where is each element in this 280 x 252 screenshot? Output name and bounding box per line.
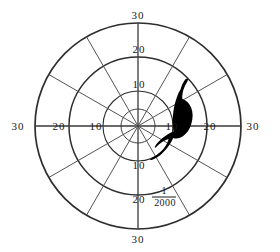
spoke-210	[49, 126, 138, 178]
label-west-30: 30	[11, 120, 24, 132]
scale-numerator: 1	[162, 185, 167, 196]
label-north-30: 30	[131, 9, 144, 21]
label-east-10: 10	[165, 120, 178, 132]
scale-fraction: 1 2000	[152, 185, 176, 208]
spoke-150	[49, 75, 138, 127]
spoke-120	[87, 37, 139, 126]
spoke-240	[87, 126, 139, 215]
axis-labels-north: 30 20 10	[131, 9, 145, 90]
label-north-20: 20	[132, 43, 145, 55]
label-east-30: 30	[246, 120, 259, 132]
scale-denominator: 2000	[154, 197, 176, 208]
axis-labels-west: 30 20 10	[11, 120, 102, 132]
label-west-20: 20	[52, 120, 65, 132]
label-north-10: 10	[132, 78, 145, 90]
polar-diagram: 30 20 10 10 20 30 30 20 10 10 20 30 1 20…	[0, 0, 280, 252]
label-south-20: 20	[132, 193, 145, 205]
label-south-30: 30	[131, 233, 144, 245]
label-south-10: 10	[132, 159, 145, 171]
label-west-10: 10	[89, 120, 102, 132]
label-east-20: 20	[203, 120, 216, 132]
